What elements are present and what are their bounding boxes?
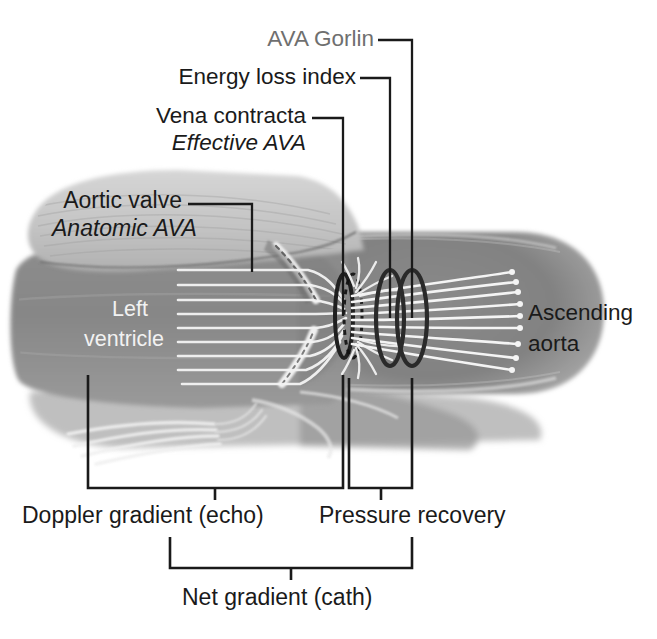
label-effective-ava: Effective AVA <box>140 130 306 155</box>
label-left-ventricle-line1: Left <box>112 297 148 321</box>
label-ava-gorlin: AVA Gorlin <box>254 26 374 51</box>
label-anatomic-ava: Anatomic AVA <box>52 216 182 242</box>
label-aortic-valve: Aortic valve <box>52 188 182 214</box>
aortic-valve-diagram: AVA Gorlin Energy loss index Vena contra… <box>0 0 657 639</box>
label-energy-loss-index: Energy loss index <box>160 64 356 89</box>
label-ascending-aorta-line2: aorta <box>528 331 579 356</box>
label-ascending-aorta-line1: Ascending <box>528 300 633 325</box>
label-net-gradient: Net gradient (cath) <box>182 585 372 611</box>
label-left-ventricle-line2: ventricle <box>84 327 164 351</box>
label-pressure-recovery: Pressure recovery <box>319 503 506 529</box>
label-vena-contracta: Vena contracta <box>140 103 306 128</box>
label-doppler-gradient: Doppler gradient (echo) <box>22 503 264 529</box>
net-gradient-bracket <box>170 537 412 580</box>
